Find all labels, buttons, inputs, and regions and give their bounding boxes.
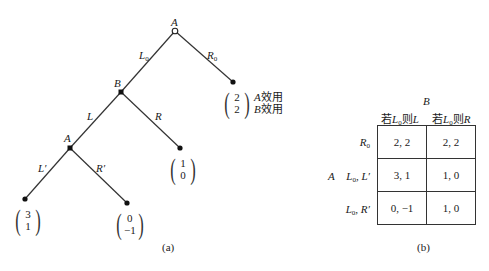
edge-r <box>121 92 180 148</box>
payoff-b: −1 <box>124 224 136 236</box>
table-cell: 0, −1 <box>378 192 427 225</box>
payoff-a: 2 <box>234 91 240 103</box>
edge-lp <box>25 148 70 199</box>
edge-label-rp: R′ <box>96 163 105 174</box>
left-paren: ( <box>15 205 21 235</box>
right-paren: ) <box>244 88 250 118</box>
edge-r0 <box>175 31 233 82</box>
row-player-label: A <box>328 170 335 182</box>
payoff-legend: A效用 B效用 <box>254 91 283 115</box>
node-b <box>119 90 124 95</box>
caption-a: (a) <box>162 241 174 253</box>
column-player-label: B <box>423 95 430 107</box>
normal-form-table: 2, 2 2, 2 3, 1 1, 0 0, −1 1, 0 <box>377 125 476 225</box>
node-b-player-label: B <box>114 78 121 89</box>
right-paren: ) <box>138 209 144 239</box>
table-row: 2, 2 2, 2 <box>378 126 476 159</box>
payoff-a: 1 <box>180 157 186 169</box>
payoff-r: ( 10 ) <box>168 154 198 184</box>
edge-label-r0: R0 <box>207 50 217 65</box>
node-a2 <box>68 146 73 151</box>
edge-label-r: R <box>155 111 162 122</box>
table-cell: 2, 2 <box>427 126 476 159</box>
terminal-lp <box>22 196 27 201</box>
payoff-a: 3 <box>25 208 31 220</box>
payoff-b: 0 <box>180 169 186 181</box>
table-cell: 2, 2 <box>378 126 427 159</box>
edge-l <box>70 92 121 148</box>
table-row: 3, 1 1, 0 <box>378 159 476 192</box>
right-paren: ) <box>35 205 41 235</box>
row-header-2: L0, L′ <box>346 170 370 184</box>
payoff-lp: ( 31 ) <box>13 205 43 235</box>
payoff-a: 0 <box>127 212 133 224</box>
edge-label-l: L <box>87 111 93 122</box>
edge-label-lp: L′ <box>38 163 47 174</box>
left-paren: ( <box>170 154 176 184</box>
left-paren: ( <box>224 88 230 118</box>
table-cell: 1, 0 <box>427 192 476 225</box>
edge-label-l0: L0 <box>139 50 149 65</box>
left-paren: ( <box>116 209 122 239</box>
table-cell: 3, 1 <box>378 159 427 192</box>
row-header-3: L0, R′ <box>346 203 370 217</box>
root-player-label: A <box>171 17 178 28</box>
terminal-rp <box>124 200 129 205</box>
table-row: 0, −1 1, 0 <box>378 192 476 225</box>
root-node-open <box>172 28 178 34</box>
terminal-r0 <box>230 79 235 84</box>
edge-rp <box>70 148 127 203</box>
payoff-rp: ( 0−1 ) <box>114 209 146 239</box>
payoff-b: 2 <box>234 103 240 115</box>
payoff-r0: ( 22 ) A效用 B效用 <box>222 88 283 118</box>
node-a2-player-label: A <box>64 133 71 144</box>
caption-b: (b) <box>417 241 430 253</box>
table-cell: 1, 0 <box>427 159 476 192</box>
row-header-1: R0 <box>360 136 370 150</box>
right-paren: ) <box>190 154 196 184</box>
payoff-b: 1 <box>25 220 31 232</box>
terminal-r <box>177 145 182 150</box>
